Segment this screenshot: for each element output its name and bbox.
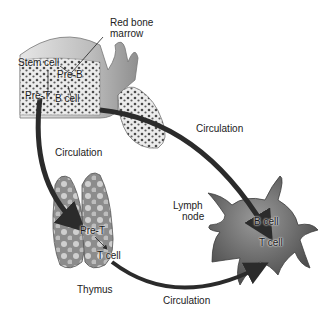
stem-cell-label: Stem cell: [18, 57, 59, 68]
circulation-label-bottom: Circulation: [163, 295, 210, 306]
lymph-node-label-line1: Lymph: [173, 200, 203, 211]
red-bone-marrow-label-line1: Red bone: [110, 17, 153, 28]
pre-b-label: Pre-B: [57, 69, 83, 80]
circulation-label-top: Circulation: [196, 123, 243, 134]
b-cell-marrow-label: B cell: [55, 93, 79, 104]
t-cell-lymph-label: T cell: [259, 237, 283, 248]
diagram-canvas: [0, 0, 332, 316]
red-bone-marrow-label-line2: marrow: [110, 28, 143, 39]
circulation-label-left: Circulation: [55, 147, 102, 158]
pre-t-thymus-label: Pre-T: [80, 225, 105, 236]
arrow-thymus-to-lymph-node: [112, 262, 258, 288]
b-cell-lymph-label: B cell: [254, 216, 278, 227]
t-cell-thymus-label: T cell: [97, 250, 121, 261]
lymph-node-illustration: [208, 176, 318, 285]
lymph-node-label-line2: node: [182, 211, 204, 222]
thymus-label: Thymus: [77, 284, 113, 295]
pre-t-marrow-label: Pre-T: [25, 90, 50, 101]
